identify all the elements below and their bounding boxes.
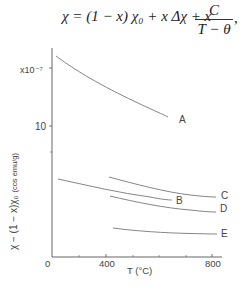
curve-label-A: A <box>179 114 186 125</box>
y-axis-title-main: χ − (1 − x)χ₀ <box>8 195 19 250</box>
curve-label-B: B <box>176 195 183 206</box>
curve-A <box>56 56 168 117</box>
curve-label-C: C <box>221 190 228 201</box>
curve-label-D: D <box>220 203 227 214</box>
x-tick-label-0: 0 <box>45 258 50 269</box>
chart: x10⁻⁷ 10 0 400 800 T (°C) A B C D E <box>0 0 249 292</box>
curve-label-E: E <box>221 228 228 239</box>
x-tick-label-400: 400 <box>99 258 115 269</box>
x-tick-label-800: 800 <box>205 258 221 269</box>
y-axis-title: χ − (1 − x)χ₀ (cos emu/g) <box>8 137 19 267</box>
curve-E <box>113 228 217 234</box>
curve-C <box>109 177 216 197</box>
x-axis-title: T (°C) <box>127 265 152 276</box>
y-multiplier-label: x10⁻⁷ <box>20 65 43 75</box>
curve-D <box>110 196 216 212</box>
y-axis-title-unit: (cos emu/g) <box>10 153 19 193</box>
y-tick-label-10: 10 <box>35 121 47 132</box>
